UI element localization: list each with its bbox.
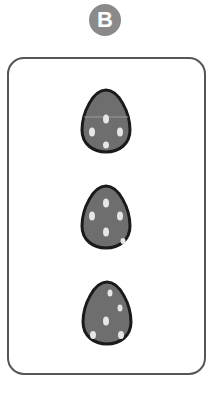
option-badge: B bbox=[89, 4, 121, 36]
egg-icon bbox=[79, 183, 133, 251]
egg-icon bbox=[80, 279, 134, 347]
egg-icon bbox=[79, 87, 133, 155]
